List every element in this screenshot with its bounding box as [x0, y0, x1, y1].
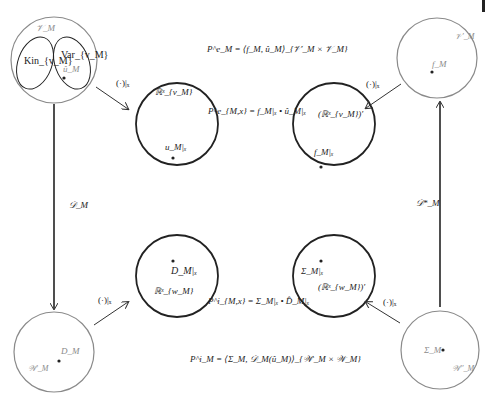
restriction-arrow-bottom-left — [94, 302, 128, 325]
equation-upper-mid: P^e_{M,x} = f_M|ₓ • û_M|ₓ — [208, 107, 306, 116]
point-f-restricted — [319, 165, 322, 168]
restriction-label-bottom-left: (·)|ₓ — [98, 296, 111, 305]
point-label-D: D_M — [61, 347, 80, 356]
space-label-top-left: 𝒱_M — [36, 24, 55, 33]
inner-space-label-top-right: (ℝˣ_{v_M})′ — [318, 110, 363, 119]
point-D-restricted — [171, 259, 174, 262]
point-sigma-restricted — [319, 259, 322, 262]
space-label-top-right: 𝒱′_M — [455, 33, 474, 41]
inner-space-label-top-left: ℝˣ_{v_M} — [155, 88, 192, 97]
inner-circle-bottom-left — [136, 235, 218, 317]
point-label-f: f_M — [432, 60, 447, 69]
point-u-hat — [62, 76, 65, 79]
inner-space-label-bottom-right: (ℝˣ_{w_M})′ — [318, 283, 365, 292]
point-D — [57, 359, 60, 362]
space-label-bottom-right: 𝒲′′_M — [452, 365, 474, 373]
operator-label-right: 𝒟*_M — [416, 199, 440, 208]
restriction-label-top-left: (·)|ₓ — [116, 79, 129, 88]
restriction-arrow-top-left — [96, 87, 128, 109]
equation-bottom: P^i_M = ⟨Σ_M, 𝒟_M(û_M)⟩_{𝒲′_M × 𝒲_M} — [190, 355, 361, 364]
point-sigma — [441, 348, 444, 351]
inner-point-label-bottom-left: D_M|ₓ — [171, 266, 197, 276]
inner-point-label-bottom-right: Σ_M|ₓ — [301, 267, 323, 276]
space-label-bottom-left: 𝒲′_M — [28, 365, 48, 373]
equation-lower-mid: P^i_{M,x} = Σ_M|ₓ • D̂_M|ₓ — [208, 297, 309, 306]
edge-marker — [482, 0, 485, 12]
point-u-restricted — [171, 156, 174, 159]
point-f — [430, 70, 433, 73]
space-circle-top-right — [397, 18, 477, 98]
restriction-label-top-right: (·)|ₓ — [366, 80, 379, 89]
operator-label-left: 𝒟_M — [69, 201, 88, 210]
inner-space-label-bottom-left: ℝˣ_{w_M} — [154, 287, 193, 296]
space-circle-bottom-left — [14, 312, 94, 392]
inner-point-label-top-right: f_M|ₓ — [314, 148, 334, 157]
var-subset-label: Var_{v_M} — [61, 50, 108, 60]
restriction-label-bottom-right: (·)|ₓ — [383, 298, 396, 307]
inner-point-label-top-left: u_M|ₓ — [165, 143, 187, 152]
equation-top: P^e_M = ⟨f_M, û_M⟩_{𝒱′_M × 𝒱_M} — [207, 45, 348, 54]
point-label-sigma: Σ_M — [424, 346, 441, 355]
inner-circle-top-right — [293, 83, 375, 165]
point-label-u-hat: û_M — [63, 65, 80, 74]
